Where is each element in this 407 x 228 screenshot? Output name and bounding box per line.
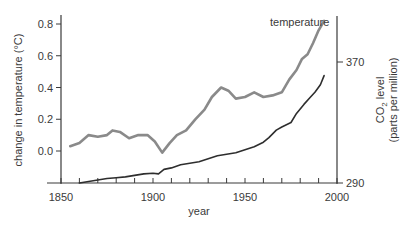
left-y-tick-label: 0.0 [38,145,53,157]
right-y-tick-label: 290 [346,177,364,189]
left-y-tick-label: 0.2 [38,113,53,125]
x-axis-ticks: 1850190019502000 [49,178,349,203]
right-y-axis-title: CO2 level (parts per million) [374,58,399,143]
left-y-axis-title: change in temperature (°C) [12,34,24,167]
left-y-axis-ticks: 0.00.20.40.60.8 [38,18,61,157]
temperature-series-line [70,21,324,153]
left-y-tick-label: 0.6 [38,50,53,62]
x-tick-label: 2000 [325,191,349,203]
x-axis-title: year [188,205,210,217]
x-tick-label: 1950 [233,191,257,203]
left-y-tick-label: 0.4 [38,82,53,94]
chart-canvas: 1850190019502000 0.00.20.40.60.8 290370 … [0,0,407,228]
right-y-tick-label: 370 [346,56,364,68]
x-tick-label: 1900 [141,191,165,203]
co2-series-line [79,76,324,183]
right-y-axis-ticks: 290370 [337,56,364,189]
left-y-tick-label: 0.8 [38,18,53,30]
temperature-annotation: temperature [270,16,329,28]
x-tick-label: 1850 [49,191,73,203]
right-y-axis-title-line2: (parts per million) [387,58,399,143]
